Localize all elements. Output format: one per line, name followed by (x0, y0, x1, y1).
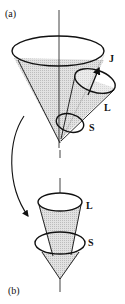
l-label-a: L (104, 102, 111, 113)
s-cone-surface-b (41, 252, 80, 279)
panel-a-label: (a) (5, 8, 16, 20)
s-label-a: S (89, 122, 95, 133)
transition-arrow (12, 116, 28, 216)
angular-momentum-diagram: (a) J L S (0, 0, 125, 304)
l-precession-ellipse-b (38, 193, 82, 211)
j-label: J (109, 53, 114, 64)
s-label-b: S (88, 237, 94, 248)
panel-b-label: (b) (8, 285, 20, 297)
l-cone-surface-b (39, 206, 81, 256)
l-label-b: L (86, 200, 93, 211)
panel-b: L S (b) (8, 150, 94, 297)
panel-a: (a) J L S (5, 8, 118, 148)
j-precession-ellipse (12, 36, 104, 66)
